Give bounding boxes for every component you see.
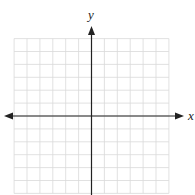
y-axis-up-arrow-icon — [88, 26, 95, 35]
x-axis-right-arrow-icon — [175, 113, 184, 120]
coordinate-plane: x y — [0, 0, 195, 195]
x-axis-left-arrow-icon — [4, 113, 13, 120]
x-axis-label: x — [187, 108, 194, 123]
y-axis-label: y — [86, 7, 94, 22]
x-axis — [4, 113, 184, 120]
